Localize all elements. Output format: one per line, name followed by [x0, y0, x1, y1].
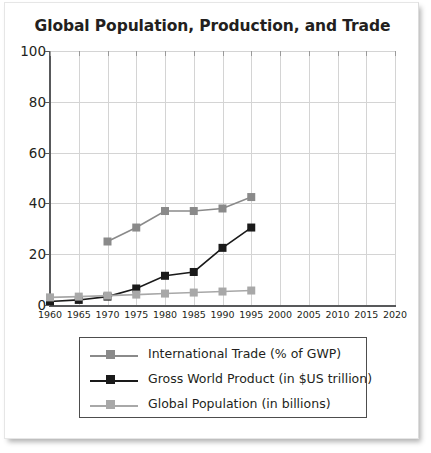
series-marker: [161, 290, 169, 298]
series-marker: [190, 289, 198, 297]
y-tick-mark: [45, 305, 50, 306]
series-0: [104, 193, 256, 245]
series-marker: [104, 238, 112, 246]
series-line: [108, 197, 252, 241]
series-marker: [161, 272, 169, 280]
series-marker: [247, 287, 255, 295]
series-marker: [190, 207, 198, 215]
chart-legend: International Trade (% of GWP)Gross Worl…: [79, 337, 367, 418]
series-marker: [247, 224, 255, 232]
legend-label: Gross World Product (in $US trillion): [148, 371, 372, 386]
series-marker: [219, 244, 227, 252]
chart-card: Global Population, Production, and Trade…: [4, 2, 419, 439]
y-tick-mark: [45, 153, 50, 154]
series-marker: [132, 291, 140, 299]
series-marker: [161, 207, 169, 215]
legend-item[interactable]: Global Population (in billions): [80, 392, 368, 419]
series-marker: [247, 193, 255, 201]
series-2: [46, 287, 255, 302]
series-marker: [132, 224, 140, 232]
y-tick-mark: [45, 102, 50, 103]
series-marker: [219, 288, 227, 296]
series-marker: [190, 268, 198, 276]
series-marker: [104, 292, 112, 300]
legend-label: Global Population (in billions): [148, 396, 331, 411]
legend-item[interactable]: Gross World Product (in $US trillion): [80, 367, 368, 394]
series-marker: [46, 293, 54, 301]
y-tick-mark: [45, 203, 50, 204]
y-tick-mark: [45, 254, 50, 255]
legend-item[interactable]: International Trade (% of GWP): [80, 342, 368, 369]
legend-marker-icon: [106, 375, 115, 384]
y-tick-mark: [45, 51, 50, 52]
legend-label: International Trade (% of GWP): [148, 346, 341, 361]
legend-marker-icon: [106, 350, 115, 359]
series-marker: [75, 293, 83, 301]
legend-marker-icon: [106, 400, 115, 409]
series-marker: [219, 204, 227, 212]
